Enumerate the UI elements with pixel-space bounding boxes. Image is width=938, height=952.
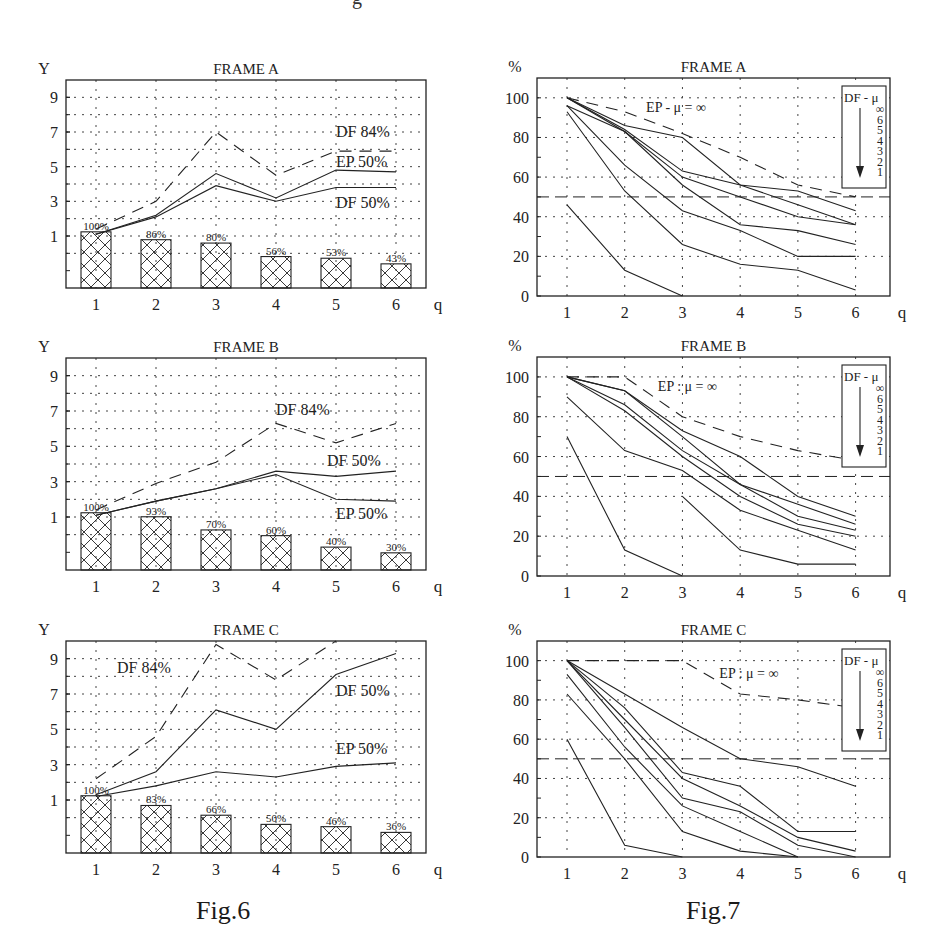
bar bbox=[81, 796, 111, 853]
x-tick-label: 5 bbox=[794, 304, 802, 321]
chart-fig6-frame-b: FRAME BYq13579123456100%93%70%60%40%30%D… bbox=[38, 338, 443, 596]
y-axis-label: % bbox=[508, 58, 521, 75]
series-label: EP 50% bbox=[336, 153, 387, 170]
chart-fig6-frame-c: FRAME CYq13579123456100%83%66%50%46%36%D… bbox=[38, 621, 443, 879]
x-axis-label: q bbox=[898, 583, 907, 602]
x-axis-label: q bbox=[898, 864, 907, 883]
bar-label: 93% bbox=[146, 505, 166, 517]
y-tick-label: 3 bbox=[50, 193, 58, 210]
y-tick-label: 40 bbox=[513, 488, 529, 505]
chart-title: FRAME B bbox=[681, 338, 746, 354]
x-tick-label: 3 bbox=[212, 296, 220, 313]
y-tick-label: 0 bbox=[521, 288, 529, 305]
x-axis-label: q bbox=[434, 577, 443, 596]
bar bbox=[321, 258, 351, 288]
x-tick-label: 1 bbox=[563, 584, 571, 601]
y-tick-label: 20 bbox=[513, 810, 529, 827]
x-axis-label: q bbox=[434, 860, 443, 879]
y-tick-label: 9 bbox=[50, 368, 58, 385]
y-tick-label: 100 bbox=[505, 369, 529, 386]
bar-label: 83% bbox=[146, 793, 166, 805]
bar-label: 66% bbox=[206, 803, 226, 815]
series-line bbox=[96, 132, 396, 229]
chart-title: FRAME A bbox=[681, 59, 747, 75]
chart-title: FRAME B bbox=[213, 339, 278, 355]
y-axis-label: Y bbox=[38, 621, 50, 638]
chart-title: FRAME A bbox=[213, 61, 279, 77]
legend-title: DF - μ bbox=[844, 653, 878, 668]
x-tick-label: 5 bbox=[794, 865, 802, 882]
y-tick-label: 5 bbox=[50, 721, 58, 738]
bar bbox=[81, 232, 111, 288]
figure-page: g FRAME AYq13579123456100%86%80%56%53%43… bbox=[0, 0, 938, 952]
x-tick-label: 6 bbox=[392, 296, 400, 313]
y-tick-label: 5 bbox=[50, 159, 58, 176]
chart-fig6-frame-a: FRAME AYq13579123456100%86%80%56%53%43%D… bbox=[0, 0, 938, 952]
series-label: DF 84% bbox=[276, 401, 330, 418]
bar-label: 40% bbox=[326, 535, 346, 547]
x-tick-label: 2 bbox=[621, 865, 629, 882]
x-tick-label: 1 bbox=[92, 861, 100, 878]
y-tick-label: 0 bbox=[521, 568, 529, 585]
bar bbox=[201, 530, 231, 570]
x-tick-label: 3 bbox=[678, 865, 686, 882]
series-label: DF 84% bbox=[117, 659, 171, 676]
bar-label: 30% bbox=[386, 541, 406, 553]
chart-fig7-frame-c: FRAME C%q020406080100123456EP : μ = ∞DF … bbox=[505, 621, 907, 883]
y-tick-label: 80 bbox=[513, 692, 529, 709]
bar-label: 100% bbox=[83, 220, 109, 232]
bar-label: 60% bbox=[266, 524, 286, 536]
series-label: DF 50% bbox=[327, 452, 381, 469]
series-label: EP 50% bbox=[336, 740, 387, 757]
x-tick-label: 3 bbox=[678, 304, 686, 321]
x-tick-label: 2 bbox=[152, 578, 160, 595]
y-tick-label: 3 bbox=[50, 757, 58, 774]
series-line bbox=[567, 661, 856, 852]
chart-title: FRAME C bbox=[213, 622, 278, 638]
legend-title: DF - μ bbox=[844, 369, 878, 384]
legend-item: 1 bbox=[877, 165, 883, 179]
x-tick-label: 5 bbox=[332, 578, 340, 595]
y-tick-label: 60 bbox=[513, 169, 529, 186]
series-line bbox=[567, 112, 856, 290]
y-axis-label: % bbox=[508, 621, 521, 638]
x-tick-label: 3 bbox=[212, 861, 220, 878]
series-line bbox=[96, 763, 396, 797]
ep-label: EP : μ = ∞ bbox=[658, 379, 717, 394]
x-tick-label: 5 bbox=[332, 861, 340, 878]
x-tick-label: 1 bbox=[92, 296, 100, 313]
bar-label: 100% bbox=[83, 784, 109, 796]
caption-fig7: Fig.7 bbox=[686, 896, 740, 926]
x-tick-label: 4 bbox=[272, 861, 280, 878]
bar bbox=[381, 264, 411, 288]
y-tick-label: 1 bbox=[50, 509, 58, 526]
x-tick-label: 4 bbox=[736, 304, 744, 321]
y-tick-label: 1 bbox=[50, 792, 58, 809]
bar bbox=[201, 815, 231, 853]
x-tick-label: 4 bbox=[736, 865, 744, 882]
x-tick-label: 2 bbox=[152, 861, 160, 878]
bar-label: 46% bbox=[326, 815, 346, 827]
y-tick-label: 80 bbox=[513, 129, 529, 146]
bar bbox=[381, 832, 411, 853]
legend-item: 1 bbox=[877, 444, 883, 458]
x-tick-label: 1 bbox=[563, 865, 571, 882]
series-label: DF 84% bbox=[336, 123, 390, 140]
bar bbox=[261, 824, 291, 853]
chart-fig7-frame-a: FRAME A%q020406080100123456EP - μ = ∞DF … bbox=[505, 58, 907, 322]
series-label: EP 50% bbox=[336, 505, 387, 522]
x-axis-label: q bbox=[434, 295, 443, 314]
y-tick-label: 1 bbox=[50, 228, 58, 245]
series-line bbox=[567, 98, 856, 211]
y-tick-label: 80 bbox=[513, 409, 529, 426]
bar-label: 86% bbox=[146, 228, 166, 240]
caption-fig6: Fig.6 bbox=[196, 896, 250, 926]
y-axis-label: % bbox=[508, 337, 521, 354]
bar-label: 43% bbox=[386, 252, 406, 264]
y-tick-label: 5 bbox=[50, 438, 58, 455]
y-tick-label: 100 bbox=[505, 90, 529, 107]
x-tick-label: 3 bbox=[212, 578, 220, 595]
series-line bbox=[567, 661, 856, 787]
bar bbox=[321, 827, 351, 853]
series-line bbox=[567, 377, 856, 524]
